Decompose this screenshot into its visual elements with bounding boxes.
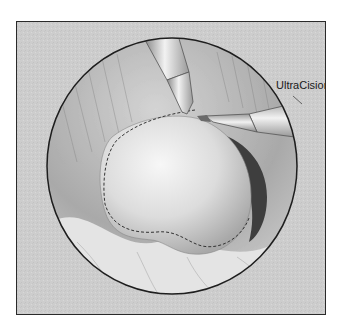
- endoscopic-view-illustration: [17, 22, 325, 314]
- illustration-frame: UltraCision: [16, 21, 326, 315]
- ultracision-label: UltraCision: [276, 79, 326, 91]
